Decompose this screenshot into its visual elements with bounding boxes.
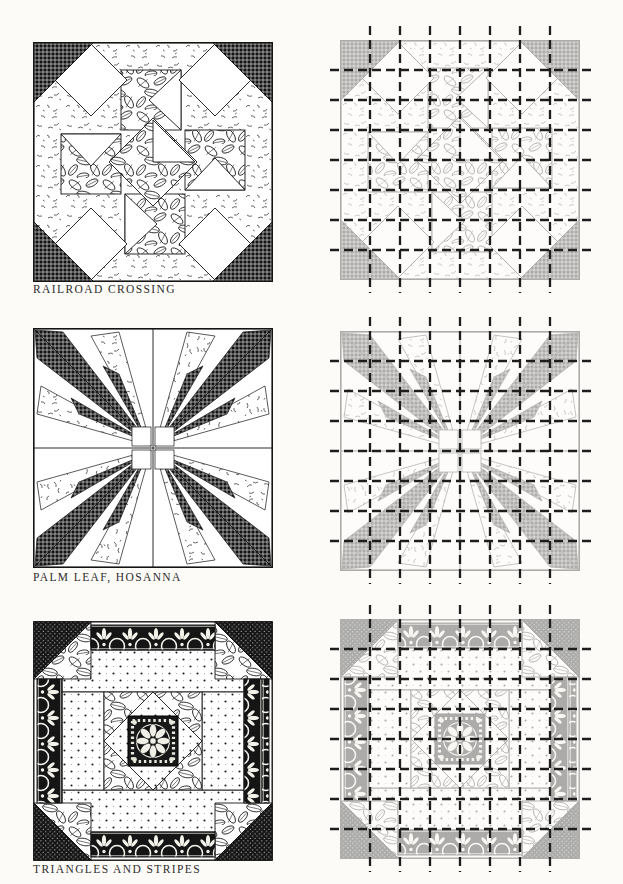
- palm-leaf-grid-figure: [340, 331, 580, 571]
- palm-leaf-drafting-grid-diagram: [340, 331, 580, 571]
- pattern-caption-railroad-crossing: RAILROAD CROSSING: [33, 283, 176, 295]
- palm-leaf-fabric-figure: [33, 328, 273, 568]
- pattern-caption-triangles-and-stripes: TRIANGLES AND STRIPES: [33, 863, 201, 875]
- railroad-crossing-fabric-figure: [33, 42, 273, 282]
- palm-leaf-block-illustration: [33, 328, 273, 568]
- railroad-crossing-block-illustration: [33, 42, 273, 282]
- triangles-and-stripes-drafting-grid-diagram: [340, 619, 580, 859]
- pattern-caption-palm-leaf: PALM LEAF, HOSANNA: [33, 571, 182, 583]
- triangles-and-stripes-block-illustration: [33, 621, 273, 861]
- railroad-crossing-drafting-grid-diagram: [340, 40, 580, 280]
- book-page: RAILROAD CROSSING PALM LEAF, HOSANNA TRI…: [0, 0, 623, 884]
- railroad-crossing-grid-figure: [340, 40, 580, 280]
- triangles-and-stripes-fabric-figure: [33, 621, 273, 861]
- triangles-and-stripes-grid-figure: [340, 619, 580, 859]
